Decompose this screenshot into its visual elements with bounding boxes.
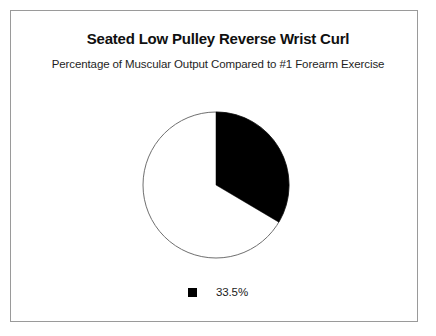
pie-chart <box>142 111 290 259</box>
legend-item-label: 33.5% <box>216 286 248 298</box>
chart-subtitle: Percentage of Muscular Output Compared t… <box>0 58 436 70</box>
legend-swatch-icon <box>188 288 197 297</box>
chart-title: Seated Low Pulley Reverse Wrist Curl <box>0 30 436 47</box>
chart-legend: 33.5% <box>0 286 436 298</box>
legend-item: 33.5% <box>188 286 248 298</box>
pie-chart-svg <box>142 111 290 259</box>
chart-page: Seated Low Pulley Reverse Wrist Curl Per… <box>0 0 436 336</box>
